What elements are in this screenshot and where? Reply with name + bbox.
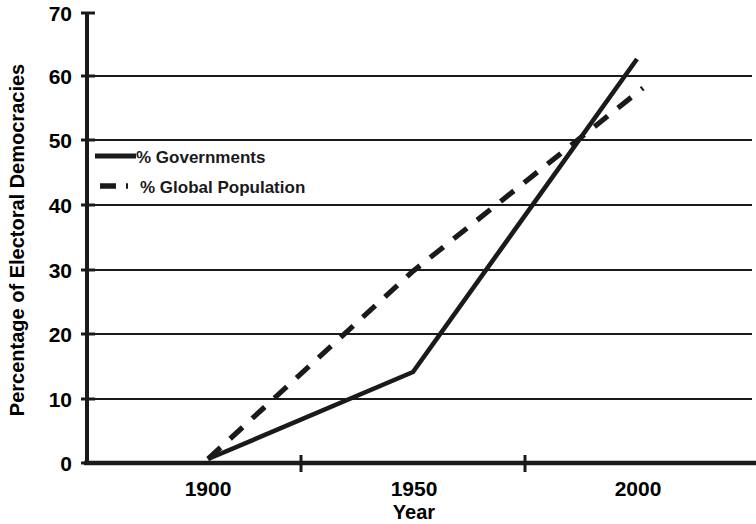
legend-label-global-population: % Global Population [140, 178, 305, 197]
gridlines [87, 76, 752, 399]
x-tick-label-2000: 2000 [615, 477, 662, 500]
axes [84, 12, 756, 464]
y-tick-label-30: 30 [49, 259, 72, 282]
y-tick-label-0: 0 [60, 452, 72, 475]
x-tick-label-1950: 1950 [391, 477, 438, 500]
legend-label-governments: % Governments [136, 148, 265, 167]
y-tick-label-60: 60 [49, 65, 72, 88]
x-tick-label-1900: 1900 [185, 477, 232, 500]
y-tick-label-10: 10 [49, 388, 72, 411]
y-tick-label-50: 50 [49, 129, 72, 152]
line-chart: 70 60 50 40 30 20 10 0 1900 1950 2000 Pe… [0, 0, 756, 524]
x-tick-labels: 1900 1950 2000 [185, 477, 662, 500]
x-axis-title: Year [393, 501, 435, 523]
y-axis-title: Percentage of Electoral Democracies [6, 64, 28, 416]
legend: % Governments % Global Population [95, 148, 305, 197]
y-tick-labels: 70 60 50 40 30 20 10 0 [49, 2, 72, 475]
y-tick-label-40: 40 [49, 194, 72, 217]
y-tick-label-20: 20 [49, 323, 72, 346]
chart-container: 70 60 50 40 30 20 10 0 1900 1950 2000 Pe… [0, 0, 756, 524]
y-tick-label-70: 70 [49, 2, 72, 25]
